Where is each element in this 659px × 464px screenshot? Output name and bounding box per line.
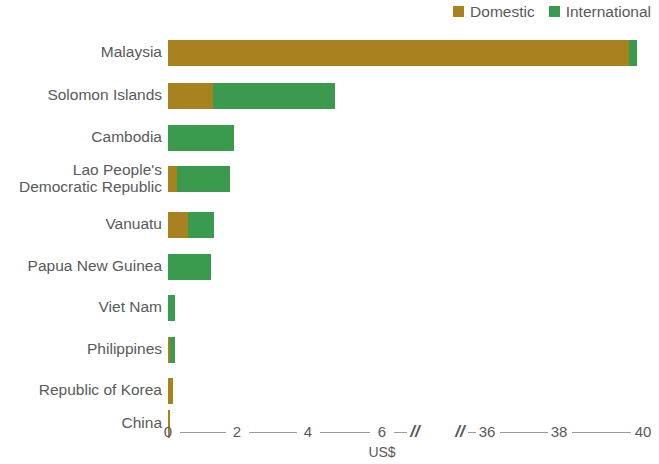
- category-label: Philippines: [0, 341, 162, 358]
- bar-row[interactable]: [168, 125, 648, 151]
- category-label: Solomon Islands: [0, 87, 162, 104]
- bar-segment-domestic[interactable]: [168, 212, 188, 238]
- x-axis-title: US$: [368, 444, 395, 460]
- axis-tick-rule: [249, 432, 297, 433]
- bar-segment-international[interactable]: [168, 125, 234, 151]
- x-tick-label: 38: [551, 424, 568, 439]
- bar-row[interactable]: [168, 83, 648, 109]
- axis-tick-rule: [572, 432, 631, 433]
- bar-segment-domestic[interactable]: [168, 166, 177, 192]
- x-tick-label: 40: [635, 424, 652, 439]
- axis-break-mark: //: [455, 423, 464, 440]
- bar-row[interactable]: [168, 212, 648, 238]
- category-label: Vanuatu: [0, 216, 162, 233]
- x-tick-label: 4: [304, 424, 312, 439]
- bar-row[interactable]: [168, 254, 648, 280]
- category-label: Lao People's Democratic Republic: [0, 162, 162, 195]
- x-tick-label: 2: [233, 424, 241, 439]
- axis-tick-rule: [394, 432, 407, 433]
- legend-item-international[interactable]: International: [549, 4, 651, 20]
- bar-segment-international[interactable]: [177, 166, 230, 192]
- axis-break-mark: //: [410, 423, 419, 440]
- x-tick-label: 0: [164, 424, 172, 439]
- bar-segment-domestic[interactable]: [168, 40, 629, 66]
- legend-label-international: International: [566, 4, 651, 20]
- bar-segment-international[interactable]: [168, 295, 175, 321]
- axis-tick-rule: [468, 432, 476, 433]
- chart-legend: Domestic International: [453, 4, 651, 20]
- bar-row[interactable]: [168, 166, 648, 192]
- bar-segment-international[interactable]: [629, 40, 637, 66]
- category-label: Papua New Guinea: [0, 258, 162, 275]
- bar-segment-international[interactable]: [188, 212, 215, 238]
- bar-segment-domestic[interactable]: [168, 378, 173, 404]
- x-tick-label: 36: [479, 424, 496, 439]
- category-label: Malaysia: [0, 44, 162, 61]
- bar-segment-international[interactable]: [168, 254, 211, 280]
- square-swatch-icon: [453, 6, 464, 17]
- x-axis: 0246363840////: [0, 424, 659, 444]
- bar-row[interactable]: [168, 295, 648, 321]
- bar-segment-international[interactable]: [170, 337, 175, 363]
- square-swatch-icon: [549, 6, 560, 17]
- bar-row[interactable]: [168, 337, 648, 363]
- bar-row[interactable]: [168, 378, 648, 404]
- legend-label-domestic: Domestic: [470, 4, 535, 20]
- axis-tick-rule: [500, 432, 548, 433]
- bar-segment-international[interactable]: [213, 83, 336, 109]
- legend-item-domestic[interactable]: Domestic: [453, 4, 535, 20]
- bar-chart: Domestic International MalaysiaSolomon I…: [0, 0, 659, 464]
- category-label: Cambodia: [0, 129, 162, 146]
- axis-tick-rule: [320, 432, 370, 433]
- category-label: Republic of Korea: [0, 382, 162, 399]
- axis-tick-rule: [180, 432, 226, 433]
- plot-area: MalaysiaSolomon IslandsCambodiaLao Peopl…: [0, 28, 659, 416]
- category-label: Viet Nam: [0, 299, 162, 316]
- bar-row[interactable]: [168, 40, 648, 66]
- bar-segment-domestic[interactable]: [168, 83, 213, 109]
- x-tick-label: 6: [378, 424, 386, 439]
